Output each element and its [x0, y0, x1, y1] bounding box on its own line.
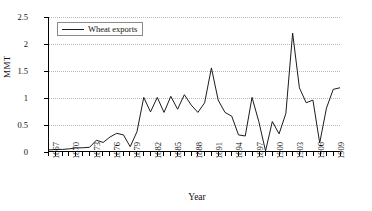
- x-tick-label: 1885: [174, 142, 183, 159]
- x-tick-mark: [306, 152, 307, 156]
- x-tick-mark: [326, 152, 327, 156]
- x-tick-mark: [292, 152, 293, 156]
- series-line-wheat-exports: [49, 17, 340, 151]
- x-tick-mark: [163, 152, 164, 156]
- plot-area: [48, 17, 340, 152]
- y-tick-mark: [44, 71, 48, 72]
- legend-line-swatch-icon: [62, 29, 84, 30]
- x-tick-mark: [48, 152, 49, 156]
- x-tick-label: 1897: [256, 142, 265, 159]
- x-tick-label: 1894: [235, 142, 244, 159]
- x-tick-mark: [184, 152, 185, 156]
- x-tick-label: 1906: [317, 142, 326, 159]
- y-tick-label: 1: [0, 94, 28, 103]
- x-tick-mark: [102, 152, 103, 156]
- y-tick-mark: [44, 125, 48, 126]
- y-tick-label: 1.5: [0, 67, 28, 76]
- x-tick-mark: [245, 152, 246, 156]
- x-tick-mark: [333, 152, 334, 156]
- chart-figure: MMT 00.511.522.5 18671870187318761879188…: [0, 0, 372, 211]
- x-tick-label: 1900: [276, 142, 285, 159]
- x-tick-label: 1888: [195, 142, 204, 159]
- y-tick-label: 0.5: [0, 121, 28, 130]
- x-tick-mark: [313, 152, 314, 156]
- x-tick-mark: [68, 152, 69, 156]
- x-axis-title: Year: [0, 192, 372, 202]
- legend-label-wheat-exports: Wheat exports: [88, 25, 137, 34]
- x-tick-mark: [129, 152, 130, 156]
- x-tick-label: 1873: [93, 142, 102, 159]
- x-tick-mark: [211, 152, 212, 156]
- x-tick-label: 1879: [133, 142, 142, 159]
- y-tick-label: 0: [0, 148, 28, 157]
- x-tick-mark: [89, 152, 90, 156]
- y-tick-label: 2: [0, 40, 28, 49]
- x-tick-label: 1870: [72, 142, 81, 159]
- y-tick-mark: [44, 98, 48, 99]
- y-tick-mark: [44, 44, 48, 45]
- x-tick-label: 1903: [296, 142, 305, 159]
- x-tick-label: 1867: [52, 142, 61, 159]
- x-tick-mark: [286, 152, 287, 156]
- x-tick-label: 1891: [215, 142, 224, 159]
- x-tick-mark: [123, 152, 124, 156]
- legend: Wheat exports: [57, 22, 143, 36]
- x-tick-mark: [265, 152, 266, 156]
- x-tick-mark: [82, 152, 83, 156]
- y-tick-mark: [44, 17, 48, 18]
- x-tick-mark: [62, 152, 63, 156]
- x-tick-mark: [170, 152, 171, 156]
- x-tick-mark: [225, 152, 226, 156]
- x-tick-label: 1876: [113, 142, 122, 159]
- x-tick-label: 1882: [154, 142, 163, 159]
- x-tick-mark: [204, 152, 205, 156]
- x-tick-mark: [109, 152, 110, 156]
- x-tick-mark: [143, 152, 144, 156]
- x-tick-mark: [252, 152, 253, 156]
- x-tick-label: 1909: [337, 142, 346, 159]
- y-tick-label: 2.5: [0, 13, 28, 22]
- x-tick-mark: [231, 152, 232, 156]
- x-tick-mark: [191, 152, 192, 156]
- x-tick-mark: [150, 152, 151, 156]
- x-tick-mark: [272, 152, 273, 156]
